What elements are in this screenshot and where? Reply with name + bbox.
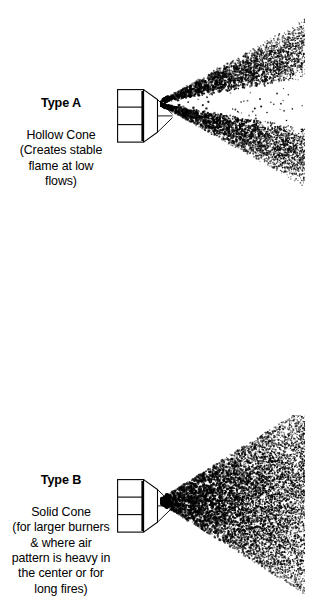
caption-type-a: Type A Hollow Cone (Creates stable flame… xyxy=(2,81,120,205)
spray-pattern-type-a xyxy=(160,17,305,189)
panel-type-b: Type B Solid Cone (for larger burners & … xyxy=(0,203,312,403)
panel-type-a: Type A Hollow Cone (Creates stable flame… xyxy=(0,3,312,203)
figure-canvas: Type A Hollow Cone (Creates stable flame… xyxy=(0,0,312,605)
panel-type-w: Type W (Can be used in place of A or B T… xyxy=(0,403,312,603)
description-type-a: Hollow Cone (Creates stable flame at low… xyxy=(2,128,120,190)
title-type-a: Type A xyxy=(2,96,120,112)
